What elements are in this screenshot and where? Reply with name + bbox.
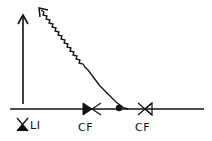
level-indicator-label: LI [30, 120, 40, 131]
junction-dot [116, 105, 122, 111]
level-indicator-icon [17, 118, 28, 131]
vertical-arrow-icon [18, 15, 28, 104]
valve-left-label: CF [78, 122, 93, 133]
valve-right-label: CF [135, 122, 150, 133]
wavy-arrow-icon [39, 8, 128, 109]
